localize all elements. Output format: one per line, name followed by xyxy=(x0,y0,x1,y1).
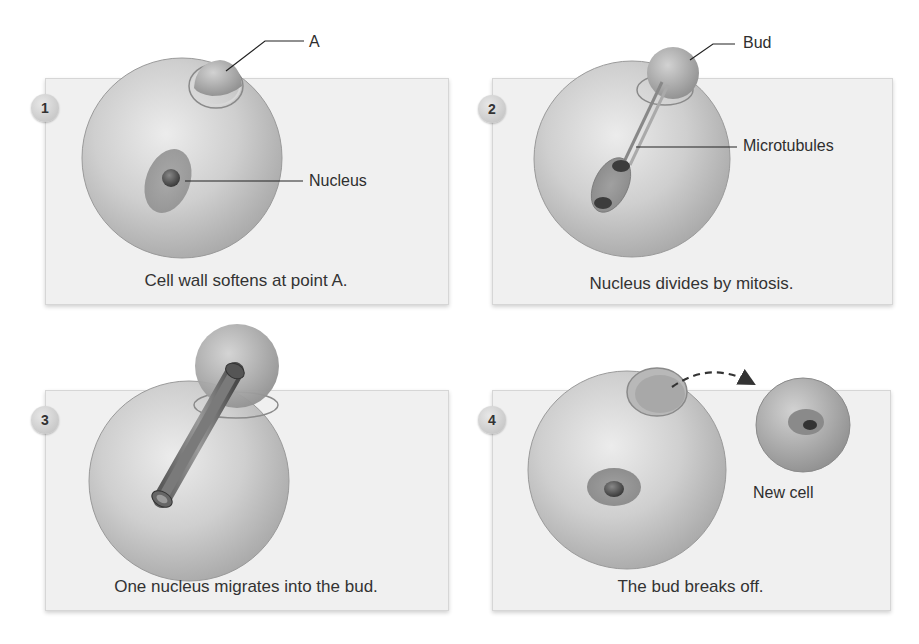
panel-4-art xyxy=(528,368,850,569)
caption-panel-2: Nucleus divides by mitosis. xyxy=(492,274,891,294)
step-badge-2: 2 xyxy=(478,95,506,123)
budding-illustration xyxy=(0,0,919,644)
caption-panel-1: Cell wall softens at point A. xyxy=(45,271,447,291)
panel-3-art xyxy=(89,324,289,581)
panel-2-art xyxy=(534,44,737,257)
mother-nucleus xyxy=(587,468,641,506)
label-microtubules: Microtubules xyxy=(743,137,834,155)
label-bud: Bud xyxy=(743,34,771,52)
panel-1-art xyxy=(82,41,304,258)
label-new-cell: New cell xyxy=(753,484,813,502)
step-badge-1: 1 xyxy=(31,94,59,122)
step-badge-3: 3 xyxy=(31,406,59,434)
bud-scar xyxy=(627,368,687,416)
caption-panel-3: One nucleus migrates into the bud. xyxy=(45,577,447,597)
step-badge-4: 4 xyxy=(478,406,506,434)
new-cell xyxy=(756,378,850,472)
label-nucleus: Nucleus xyxy=(309,172,367,190)
label-a: A xyxy=(309,33,320,51)
caption-panel-4: The bud breaks off. xyxy=(492,577,889,597)
